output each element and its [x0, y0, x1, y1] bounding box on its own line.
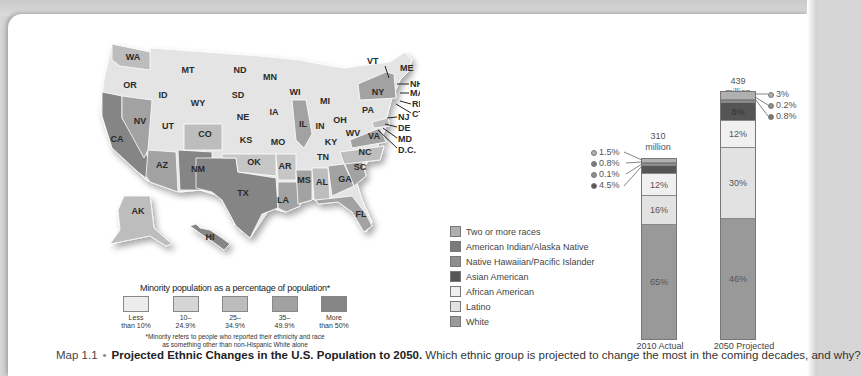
seg-white: 46% [721, 218, 755, 339]
race-legend-label: American Indian/Alaska Native [466, 242, 589, 252]
state-label-nd: ND [234, 65, 247, 75]
state-label-ks: KS [240, 135, 253, 145]
bin-label-line1: 25– [229, 314, 241, 321]
callouts-2010: 1.5% 0.8% 0.1% 4.5% [591, 147, 620, 191]
total-value: 310 [650, 131, 665, 141]
legend-bin-3: 35–49.9% [265, 296, 305, 330]
state-label-ok: OK [247, 157, 261, 167]
legend-swatch [450, 226, 461, 237]
map-legend-title: Minority population as a percentage of p… [110, 283, 360, 293]
map-legend: Minority population as a percentage of p… [110, 283, 360, 349]
state-label-mn: MN [263, 72, 277, 82]
bin-label-line1: 10– [180, 314, 192, 321]
state-label-tn: TN [317, 152, 329, 162]
legend-bin-2: 25–34.9% [215, 296, 255, 330]
legend-swatch [123, 296, 149, 312]
race-legend-item: White [450, 314, 595, 329]
callout-value: 1.5% [599, 147, 620, 157]
state-label-ky: KY [325, 137, 338, 147]
bar-2010-actual: 12% 16% 65% [641, 158, 677, 340]
callout-value: 3% [776, 89, 789, 99]
us-map: WAORMTIDWYNDSDMNWIMINEIAILINOHPANYNVUTCO… [0, 0, 420, 280]
race-legend-label: African American [466, 287, 534, 297]
dot-icon [768, 103, 774, 109]
callout-two-or-more: 1.5% [591, 147, 620, 158]
footnote-line2: as something other than non-Hispanic Whi… [162, 341, 308, 348]
state-label-pa: PA [362, 105, 374, 115]
state-label-co: CO [198, 129, 212, 139]
legend-swatch [450, 301, 461, 312]
race-legend-item: Asian American [450, 269, 595, 284]
legend-swatch [173, 296, 199, 312]
dot-icon [768, 92, 774, 98]
caption-bullet: • [103, 349, 107, 361]
total-value: 439 [730, 76, 745, 86]
legend-swatch [450, 241, 461, 252]
bin-label-line1: More [326, 314, 342, 321]
race-legend-label: Latino [466, 302, 491, 312]
race-legend-label: Native Hawaiian/Pacific Islander [466, 257, 595, 267]
seg-white: 65% [642, 224, 676, 339]
state-label-ne: NE [237, 112, 250, 122]
legend-swatch [321, 296, 347, 312]
bin-label-line2: 24.9% [176, 322, 196, 329]
state-label-sc: SC [354, 162, 367, 172]
callout-value: 0.8% [599, 158, 620, 168]
race-legend-label: Two or more races [466, 227, 541, 237]
state-label-nc: NC [359, 147, 372, 157]
state-label-ut: UT [162, 121, 174, 131]
bin-label-line1: Less [129, 314, 144, 321]
seg-african-american: 12% [721, 120, 755, 147]
race-legend-label: Asian American [466, 272, 529, 282]
state-label-sd: SD [232, 90, 245, 100]
state-label-ga: GA [338, 174, 352, 184]
bar-2050-projected: 8% 12% 30% 46% [720, 91, 756, 340]
state-label-in: IN [316, 121, 325, 131]
map-legend-footnote: *Minority refers to people who reported … [110, 333, 360, 349]
total-unit: million [645, 142, 671, 152]
state-label-tx: TX [237, 188, 249, 198]
dot-icon [768, 114, 774, 120]
callout-american-indian: 0.8% [768, 111, 797, 122]
legend-swatch [450, 271, 461, 282]
callout-me: ME [400, 63, 414, 73]
legend-swatch [222, 296, 248, 312]
bin-label-line2: than 50% [319, 322, 349, 329]
legend-swatch [450, 286, 461, 297]
state-shape-az [146, 150, 178, 192]
state-label-ca: CA [111, 134, 124, 144]
seg-two-or-more [721, 92, 755, 99]
state-label-la: LA [277, 195, 289, 205]
state-label-oh: OH [333, 115, 347, 125]
bin-label-line2: than 10% [121, 322, 151, 329]
callout-asian: 4.5% [591, 180, 620, 191]
state-label-wi: WI [290, 87, 301, 97]
seg-asian: 8% [721, 102, 755, 120]
race-legend-item: African American [450, 284, 595, 299]
callout-value: 0.2% [776, 100, 797, 110]
state-label-ia: IA [270, 107, 280, 117]
dot-icon [591, 172, 597, 178]
callout-american-indian: 0.8% [591, 158, 620, 169]
callout-value: 0.8% [776, 111, 797, 121]
callout-vt: VT [367, 56, 379, 66]
state-label-wy: WY [191, 98, 206, 108]
state-label-mt: MT [182, 65, 195, 75]
callout-ct: CT [412, 109, 420, 119]
callout-md: MD [398, 134, 412, 144]
race-legend-item: Two or more races [450, 224, 595, 239]
map-legend-swatches: Lessthan 10% 10–24.9% 25–34.9% 35–49.9% … [110, 296, 360, 330]
state-label-al: AL [316, 177, 328, 187]
legend-swatch [450, 256, 461, 267]
state-label-az: AZ [156, 160, 168, 170]
callout-de: DE [398, 123, 411, 133]
state-label-wv: WV [346, 128, 361, 138]
state-label-ar: AR [279, 161, 292, 171]
callout-nj: NJ [398, 112, 410, 122]
dot-icon [591, 150, 597, 156]
seg-asian [642, 165, 676, 173]
callout-leader-lines-2010 [622, 148, 644, 192]
race-legend: Two or more races American Indian/Alaska… [450, 224, 595, 329]
bin-label-line1: 35– [279, 314, 291, 321]
state-label-mo: MO [271, 137, 286, 147]
